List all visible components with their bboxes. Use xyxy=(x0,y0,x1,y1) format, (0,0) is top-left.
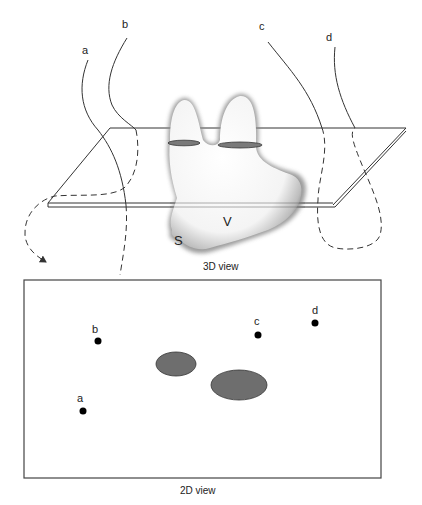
curve-label-a: a xyxy=(82,44,89,56)
point-label-d: d xyxy=(312,304,318,316)
point-label-a: a xyxy=(77,392,84,404)
curve-label-d: d xyxy=(326,31,332,43)
cross-section-left-2d xyxy=(156,352,196,376)
curve-a xyxy=(82,60,127,275)
volume-shape xyxy=(167,94,305,253)
view-2d: a b c d 2D view xyxy=(24,280,381,496)
curve-d xyxy=(334,47,355,128)
curve-d-lower xyxy=(355,128,379,238)
point-label-b: b xyxy=(92,323,98,335)
point-a xyxy=(80,408,87,415)
curve-b xyxy=(25,38,138,262)
shape-label-s: S xyxy=(174,233,183,248)
caption-3d-view: 3D view xyxy=(203,261,239,272)
cross-section-right-2d xyxy=(211,370,267,400)
point-b xyxy=(95,338,102,345)
cross-section-right-3d xyxy=(218,142,262,148)
diagram-canvas: a b c d S V 3D view a b c d 2D view xyxy=(0,0,422,505)
view-3d: a b c d S V 3D view xyxy=(25,18,406,275)
caption-2d-view: 2D view xyxy=(180,485,216,496)
point-c xyxy=(255,332,262,339)
point-d xyxy=(312,320,319,327)
cross-section-left-3d xyxy=(168,140,200,146)
point-label-c: c xyxy=(254,315,260,327)
shape-label-v: V xyxy=(223,214,232,229)
curve-label-c: c xyxy=(259,20,265,32)
view-2d-frame xyxy=(24,280,381,478)
curve-label-b: b xyxy=(122,18,128,30)
